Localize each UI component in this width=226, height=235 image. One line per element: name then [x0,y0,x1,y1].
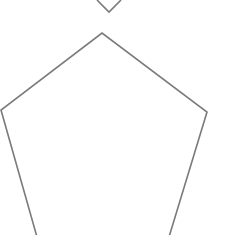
diagram-canvas [0,0,226,235]
background [0,0,226,235]
